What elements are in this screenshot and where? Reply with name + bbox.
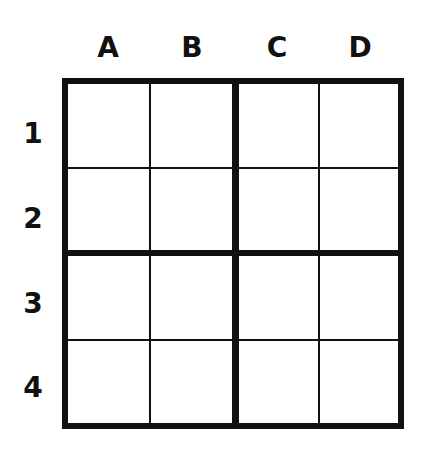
col-label-a: A: [88, 34, 128, 62]
thin-hline-34: [68, 339, 398, 341]
col-label-c: C: [257, 34, 297, 62]
row-label-2: 2: [18, 205, 48, 233]
col-label-d: D: [340, 34, 380, 62]
thin-hline-12: [68, 167, 398, 169]
col-label-b: B: [172, 34, 212, 62]
sudoku-grid: [62, 78, 404, 429]
row-label-4: 4: [18, 374, 48, 402]
row-label-3: 3: [18, 290, 48, 318]
row-label-1: 1: [18, 120, 48, 148]
thick-hline-23: [68, 250, 398, 256]
